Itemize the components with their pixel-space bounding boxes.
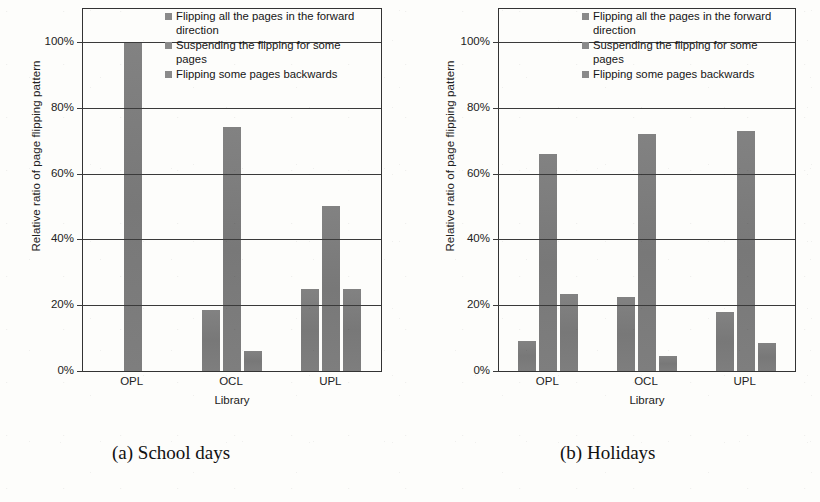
y-tick-mark <box>77 371 83 372</box>
y-tick-mark <box>77 174 83 175</box>
x-axis-title-b: Library <box>498 394 796 406</box>
bar <box>716 312 734 371</box>
y-tick-mark <box>77 108 83 109</box>
legend-label: Flipping all the pages in the forward di… <box>176 9 355 38</box>
bar <box>223 127 241 371</box>
y-tick-label: 0% <box>473 364 490 376</box>
bar <box>124 42 142 371</box>
gridline <box>83 108 381 109</box>
figure-container: Relative ratio of page flipping pattern … <box>0 0 820 502</box>
y-tick-label: 60% <box>51 167 74 179</box>
bar <box>202 310 220 371</box>
panel-caption-a: (a) School days <box>112 442 230 464</box>
x-tick-label: OPL <box>120 375 143 387</box>
legend-swatch-icon <box>165 71 172 78</box>
bar <box>518 341 536 371</box>
y-tick-label: 100% <box>45 35 74 47</box>
bar <box>758 343 776 371</box>
y-tick-mark <box>77 239 83 240</box>
legend-label: Flipping some pages backwards <box>593 67 754 81</box>
bar <box>244 351 262 371</box>
x-axis-ticks-b: OPLOCLUPL <box>498 375 796 393</box>
x-axis-ticks-a: OPLOCLUPL <box>82 375 382 393</box>
x-tick-label: UPL <box>319 375 341 387</box>
x-tick-label: OCL <box>634 375 658 387</box>
x-tick-label: OPL <box>536 375 559 387</box>
y-tick-label: 20% <box>51 298 74 310</box>
bar <box>322 206 340 371</box>
bar <box>343 289 361 371</box>
y-axis-ticks-b: 0%20%40%60%80%100% <box>446 62 494 372</box>
gridline <box>83 174 381 175</box>
y-tick-label: 20% <box>467 298 490 310</box>
legend-label: Suspending the flipping for some pages <box>593 38 772 67</box>
bar <box>301 289 319 371</box>
bar <box>539 154 557 371</box>
x-axis-title-a: Library <box>82 394 382 406</box>
legend-swatch-icon <box>582 71 589 78</box>
chart-panel-b: Relative ratio of page flipping pattern … <box>410 0 820 440</box>
legend-item: Suspending the flipping for some pages <box>582 38 772 67</box>
y-tick-label: 80% <box>467 101 490 113</box>
y-axis-ticks-a: 0%20%40%60%80%100% <box>30 62 78 372</box>
gridline <box>83 239 381 240</box>
y-tick-label: 0% <box>57 364 74 376</box>
legend-label: Suspending the flipping for some pages <box>176 38 355 67</box>
panel-caption-b: (b) Holidays <box>560 442 656 464</box>
bar <box>737 131 755 371</box>
y-tick-mark <box>493 371 499 372</box>
legend-swatch-icon <box>582 42 589 49</box>
legend-swatch-icon <box>165 13 172 20</box>
bar <box>617 297 635 371</box>
legend-item: Flipping some pages backwards <box>582 67 772 81</box>
y-tick-mark <box>493 305 499 306</box>
legend-swatch-icon <box>165 42 172 49</box>
y-tick-label: 60% <box>467 167 490 179</box>
legend-item: Flipping some pages backwards <box>165 67 355 81</box>
y-tick-mark <box>77 305 83 306</box>
legend-b: Flipping all the pages in the forward di… <box>582 9 772 81</box>
y-tick-mark <box>493 108 499 109</box>
y-tick-mark <box>493 42 499 43</box>
bar <box>638 134 656 371</box>
y-tick-label: 80% <box>51 101 74 113</box>
gridline <box>499 305 795 306</box>
x-tick-label: OCL <box>219 375 243 387</box>
y-tick-mark <box>493 239 499 240</box>
y-tick-label: 40% <box>467 232 490 244</box>
y-tick-label: 40% <box>51 232 74 244</box>
gridline <box>499 174 795 175</box>
legend-label: Flipping some pages backwards <box>176 67 337 81</box>
x-tick-label: UPL <box>733 375 755 387</box>
gridline <box>83 305 381 306</box>
legend-swatch-icon <box>582 13 589 20</box>
y-tick-label: 100% <box>461 35 490 47</box>
legend-label: Flipping all the pages in the forward di… <box>593 9 772 38</box>
chart-panel-a: Relative ratio of page flipping pattern … <box>0 0 410 440</box>
legend-item: Flipping all the pages in the forward di… <box>582 9 772 38</box>
bar <box>659 356 677 371</box>
legend-item: Suspending the flipping for some pages <box>165 38 355 67</box>
gridline <box>499 108 795 109</box>
y-tick-mark <box>77 42 83 43</box>
legend-item: Flipping all the pages in the forward di… <box>165 9 355 38</box>
y-tick-mark <box>493 174 499 175</box>
gridline <box>499 239 795 240</box>
legend-a: Flipping all the pages in the forward di… <box>165 9 355 81</box>
